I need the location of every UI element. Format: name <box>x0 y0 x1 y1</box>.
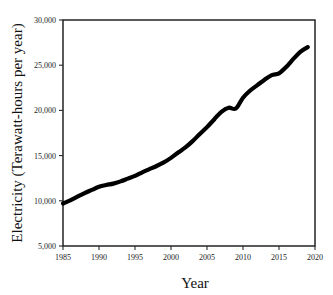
y-tick-label: 10,000 <box>34 197 56 206</box>
x-tick-label: 1990 <box>91 253 107 262</box>
x-axis-title: Year <box>181 275 209 291</box>
x-tick-label: 2000 <box>163 253 179 262</box>
chart-figure: 5,00010,00015,00020,00025,00030,000 1985… <box>0 0 333 295</box>
x-tick-label: 2005 <box>199 253 215 262</box>
y-tick-label: 5,000 <box>38 242 56 251</box>
y-tick-label: 25,000 <box>34 61 56 70</box>
x-tick-label: 1985 <box>55 253 71 262</box>
y-axis-title: Electricity (Terawatt-hours per year) <box>9 23 26 242</box>
x-tick-label: 2020 <box>307 253 323 262</box>
x-tick-label: 2010 <box>235 253 251 262</box>
line-chart: 5,00010,00015,00020,00025,00030,000 1985… <box>0 0 333 295</box>
y-tick-label: 15,000 <box>34 152 56 161</box>
x-tick-label: 1995 <box>127 253 143 262</box>
x-tick-label: 2015 <box>271 253 287 262</box>
y-tick-label: 20,000 <box>34 106 56 115</box>
y-tick-label: 30,000 <box>34 16 56 25</box>
